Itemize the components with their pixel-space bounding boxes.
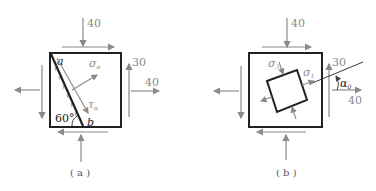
alpha0-label: α0	[340, 77, 351, 90]
sigma1-label: σ1	[303, 66, 314, 79]
figure-b: 40 30 40 σ3 σ1 α0 ( b )	[214, 17, 363, 178]
right-shear-label: 30	[132, 56, 146, 69]
angle-label: 60°	[55, 112, 75, 125]
caption-a: ( a )	[70, 167, 90, 178]
right-normal-label: 40	[145, 76, 159, 89]
right-shear-label: 30	[332, 56, 346, 69]
sigma3-label: σ3	[268, 57, 280, 70]
principal-element	[267, 70, 307, 112]
stress-element-diagram: 40 30 40 a b τα σα	[0, 0, 376, 191]
caption-b: ( b )	[276, 167, 297, 178]
figure-a: 40 30 40 a b τα σα	[15, 17, 159, 178]
top-stress-label: 40	[291, 17, 305, 30]
element-square-b	[249, 53, 322, 127]
top-stress-label: 40	[87, 17, 101, 30]
point-b-label: b	[87, 116, 94, 129]
sigma1-arrow-left	[261, 97, 272, 101]
plane-hatching	[55, 67, 76, 116]
sigma3-arrow-bottom	[292, 107, 296, 119]
tau-label: τα	[88, 98, 98, 111]
sigma-alpha-arrow	[72, 75, 97, 90]
alpha0-arc	[336, 76, 338, 90]
right-normal-label: 40	[348, 94, 362, 107]
sigma3-arrow-top	[279, 62, 283, 74]
point-a-label: a	[57, 55, 64, 68]
sigma-alpha-label: σα	[89, 57, 101, 70]
